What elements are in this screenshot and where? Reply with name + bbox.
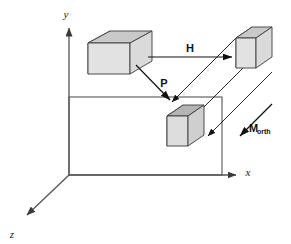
projected-box [167,105,204,146]
diagram-canvas: y x z [0,0,291,244]
projected-box-front-face [167,116,188,146]
z-axis-line [27,175,69,215]
morth-vector-subscript: orth [257,128,271,135]
h-vector-label: H [186,42,194,54]
orthographic-projection-figure: y x z [0,0,291,244]
projection-ray-top [172,38,236,102]
transformed-box [236,27,272,68]
p-vector: P [136,65,170,100]
morth-vector: M orth [240,104,272,136]
source-box-front-face [88,43,130,74]
y-axis-label: y [63,8,69,20]
p-vector-label: P [160,77,167,89]
z-axis-label: z [9,228,15,240]
x-axis-label: x [245,166,251,178]
source-box [88,31,152,74]
transformed-box-front-face [236,38,256,68]
projection-ray-bottom [208,72,272,136]
